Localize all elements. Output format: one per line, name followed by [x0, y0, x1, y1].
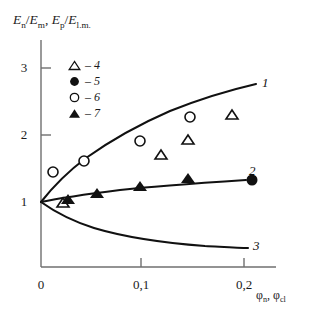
marker-open-circle: [135, 136, 145, 146]
legend-item-4: – 4: [66, 58, 142, 73]
y-axis-label-comma: ,: [45, 12, 52, 27]
legend-number-5: 5: [94, 74, 100, 88]
y-tick-label-3: 3: [16, 60, 32, 76]
y-tick-label-1: 1: [16, 194, 32, 210]
legend-item-6: – 6: [66, 90, 142, 105]
x-tick-label-0p1: 0,1: [126, 277, 156, 293]
y-axis-label-e3: E: [52, 12, 60, 27]
x-axis-label: φn, φcl: [256, 288, 286, 304]
legend-number-6: 6: [94, 90, 100, 104]
legend-label-7: – 7: [82, 106, 100, 121]
legend-label-6: – 6: [82, 90, 100, 105]
data-markers-group: [48, 110, 258, 207]
legend-number-4: 4: [94, 58, 100, 72]
marker-open-triangle: [155, 150, 167, 159]
marker-open-circle: [185, 112, 195, 122]
y-axis-label: En/Em, Ep/El.m.: [13, 12, 91, 30]
legend-item-7: – 7: [66, 106, 142, 121]
marker-open-triangle: [226, 110, 238, 119]
filled-triangle-icon: [66, 108, 82, 119]
curve-label-2: 2: [249, 163, 256, 179]
curve-3: [41, 202, 248, 248]
open-circle-icon: [66, 92, 82, 103]
x-axis-label-sub2: cl: [280, 295, 286, 304]
legend: – 4 – 5 – 6 – 7: [66, 58, 142, 122]
x-tick-label-0: 0: [33, 277, 49, 293]
filled-circle-icon: [66, 76, 82, 87]
y-axis-label-e4: E: [68, 12, 76, 27]
y-axis-label-sub4: l.m.: [77, 20, 91, 30]
legend-number-7: 7: [94, 106, 100, 120]
legend-label-4: – 4: [82, 58, 100, 73]
marker-open-triangle: [182, 135, 194, 144]
legend-label-5: – 5: [82, 74, 100, 89]
marker-filled-triangle: [181, 173, 195, 183]
marker-filled-triangle: [133, 181, 147, 191]
y-axis-label-sub2: m: [38, 20, 45, 30]
marker-open-circle: [79, 156, 89, 166]
chart-plot-area: [0, 0, 318, 313]
x-tick-label-0p2: 0,2: [229, 277, 259, 293]
chart-figure: En/Em, Ep/El.m. φn, φcl 3 2 1 0 0,1 0,2 …: [0, 0, 318, 313]
legend-item-5: – 5: [66, 74, 142, 89]
y-tick-label-2: 2: [16, 127, 32, 143]
y-axis-label-e1: E: [13, 12, 21, 27]
open-triangle-icon: [66, 60, 82, 71]
curve-label-1: 1: [262, 75, 269, 91]
y-axis-label-e2: E: [30, 12, 38, 27]
x-axis-label-phi2: φ: [273, 288, 280, 302]
curve-label-3: 3: [253, 238, 260, 254]
marker-open-circle: [48, 167, 58, 177]
